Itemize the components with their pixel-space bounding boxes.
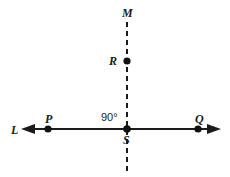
label-point-s: S [123,134,130,146]
geometry-canvas [0,0,230,177]
label-point-q: Q [195,113,204,125]
label-point-m: M [122,7,133,19]
geometry-diagram: M R P Q L S 90° [0,0,230,177]
label-point-r: R [109,55,117,67]
point-r-dot [123,57,130,64]
label-angle-measure: 90° [101,112,118,123]
arrowhead-right-icon [207,124,221,134]
label-point-p: P [45,113,52,125]
arrowhead-left-icon [21,124,35,134]
point-s-dot [123,125,131,133]
point-p-dot [44,125,51,132]
point-q-dot [194,125,201,132]
label-point-l: L [11,124,18,136]
